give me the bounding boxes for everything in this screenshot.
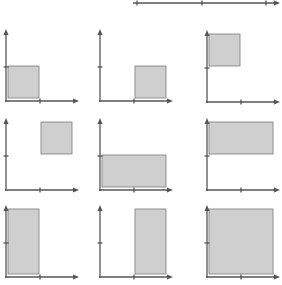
coordinate-panel-4 (4, 118, 80, 193)
coordinate-panel-6 (205, 118, 281, 193)
coordinate-panel-1 (4, 29, 80, 104)
diagram-canvas (0, 0, 282, 285)
arrow-up-icon (4, 29, 9, 35)
panel-grid (4, 29, 281, 280)
shaded-rectangle (102, 155, 166, 187)
arrow-right-icon (167, 99, 173, 104)
shaded-rectangle (8, 209, 39, 274)
arrow-up-icon (4, 205, 9, 211)
arrow-up-icon (4, 118, 9, 124)
shaded-rectangle (8, 66, 39, 98)
arrow-up-icon (205, 118, 210, 124)
arrow-right-icon (167, 275, 173, 280)
shaded-rectangle (209, 34, 240, 66)
top-x-axis (133, 1, 280, 6)
coordinate-panel-3 (205, 30, 281, 105)
shaded-rectangle (41, 122, 72, 154)
arrow-right-icon (274, 1, 280, 6)
arrow-right-icon (274, 188, 280, 193)
shaded-rectangle (209, 209, 273, 274)
coordinate-panel-7 (4, 205, 80, 280)
arrow-up-icon (205, 205, 210, 211)
coordinate-panel-9 (205, 205, 281, 280)
arrow-up-icon (205, 30, 210, 36)
arrow-up-icon (98, 205, 103, 211)
shaded-rectangle (135, 66, 166, 98)
shaded-rectangle (135, 209, 166, 274)
arrow-right-icon (167, 188, 173, 193)
arrow-right-icon (73, 188, 79, 193)
arrow-right-icon (274, 275, 280, 280)
arrow-right-icon (73, 275, 79, 280)
arrow-up-icon (98, 29, 103, 35)
arrow-right-icon (274, 100, 280, 105)
arrow-right-icon (73, 99, 79, 104)
arrow-up-icon (98, 118, 103, 124)
coordinate-panel-8 (98, 205, 174, 280)
shaded-rectangle (209, 122, 273, 154)
coordinate-panel-2 (98, 29, 174, 104)
coordinate-panel-5 (98, 118, 174, 193)
